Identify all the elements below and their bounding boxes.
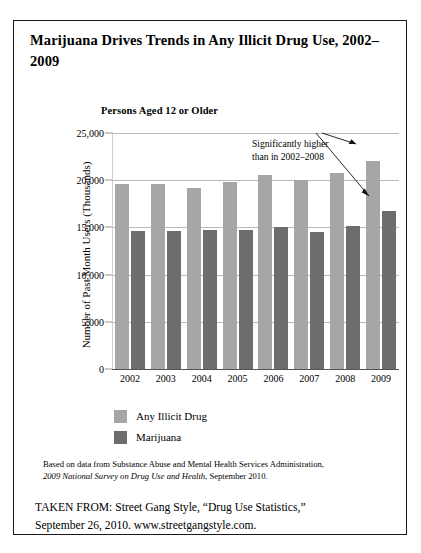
bar-any-illicit-drug-2007 — [294, 180, 308, 369]
bar-marijuana-2008 — [346, 226, 360, 369]
taken-from-note: TAKEN FROM: Street Gang Style, “Drug Use… — [35, 499, 397, 534]
bar-group-2003 — [151, 133, 181, 369]
bar-marijuana-2005 — [239, 230, 253, 369]
chart-annotation: Significantly higher than in 2002–2008 — [252, 138, 328, 164]
y-tick-label-15000: 15,000 — [44, 222, 104, 233]
bar-any-illicit-drug-2004 — [187, 188, 201, 369]
legend-label-any-illicit-drug: Any Illicit Drug — [136, 410, 207, 422]
bar-marijuana-2007 — [310, 232, 324, 369]
legend-item-any-illicit-drug: Any Illicit Drug — [114, 407, 207, 425]
x-tick-label-2004: 2004 — [182, 373, 222, 384]
y-tick-label-20000: 20,000 — [44, 175, 104, 186]
x-tick-label-2002: 2002 — [110, 373, 150, 384]
y-tick-label-25000: 25,000 — [44, 128, 104, 139]
bar-marijuana-2009 — [382, 211, 396, 369]
bar-group-2007 — [294, 133, 324, 369]
x-tick-label-2007: 2007 — [289, 373, 329, 384]
source-note: Based on data from Substance Abuse and M… — [43, 458, 391, 482]
bar-group-2005 — [223, 133, 253, 369]
bar-marijuana-2004 — [203, 230, 217, 369]
bar-any-illicit-drug-2006 — [258, 175, 272, 369]
y-tick-label-5000: 5,000 — [44, 316, 104, 327]
annotation-line-2: than in 2002–2008 — [252, 151, 328, 164]
bar-any-illicit-drug-2009 — [366, 161, 380, 369]
y-tick-label-10000: 10,000 — [44, 269, 104, 280]
bar-any-illicit-drug-2005 — [223, 182, 237, 369]
bar-group-2008 — [330, 133, 360, 369]
bar-group-2006 — [258, 133, 288, 369]
legend-item-marijuana: Marijuana — [114, 428, 207, 446]
bar-marijuana-2003 — [167, 231, 181, 369]
bar-any-illicit-drug-2002 — [115, 184, 129, 369]
y-tick-label-0: 0 — [44, 364, 104, 375]
x-axis-tick-labels: 20022003200420052006200720082009 — [112, 373, 399, 389]
plot-area — [112, 133, 399, 369]
bar-group-2009 — [366, 133, 396, 369]
source-note-line-2: 2009 National Survey on Drug Use and Hea… — [43, 470, 391, 482]
x-tick-label-2008: 2008 — [325, 373, 365, 384]
y-axis-line — [112, 133, 113, 369]
bar-any-illicit-drug-2008 — [330, 173, 344, 369]
x-tick-label-2005: 2005 — [218, 373, 258, 384]
chart-subtitle: Persons Aged 12 or Older — [101, 105, 218, 116]
bar-group-2002 — [115, 133, 145, 369]
annotation-line-1: Significantly higher — [252, 138, 328, 151]
x-tick-label-2009: 2009 — [361, 373, 401, 384]
source-note-publication: 2009 National Survey on Drug Use and Hea… — [43, 471, 205, 481]
legend-swatch-marijuana — [114, 431, 127, 444]
y-axis-title: Number of Past Month Users (Thousands) — [80, 135, 92, 375]
source-note-date: , September 2010. — [205, 471, 268, 481]
taken-from-line-2: September 26, 2010. www.streetgangstyle.… — [35, 517, 397, 535]
bar-any-illicit-drug-2003 — [151, 184, 165, 369]
bar-marijuana-2002 — [131, 231, 145, 369]
chart-legend: Any Illicit DrugMarijuana — [114, 407, 207, 449]
taken-from-line-1: TAKEN FROM: Street Gang Style, “Drug Use… — [35, 499, 397, 517]
x-tick-label-2003: 2003 — [146, 373, 186, 384]
bar-group-2004 — [187, 133, 217, 369]
y-axis-tick-labels: 05,00010,00015,00020,00025,000 — [42, 133, 104, 369]
x-axis-line — [112, 369, 399, 370]
source-note-line-1: Based on data from Substance Abuse and M… — [43, 458, 391, 470]
bar-marijuana-2006 — [274, 227, 288, 369]
figure-container: Marijuana Drives Trends in Any Illicit D… — [13, 20, 407, 535]
x-tick-label-2006: 2006 — [253, 373, 293, 384]
figure-title: Marijuana Drives Trends in Any Illicit D… — [30, 30, 380, 72]
legend-swatch-any-illicit-drug — [114, 410, 127, 423]
legend-label-marijuana: Marijuana — [136, 431, 181, 443]
